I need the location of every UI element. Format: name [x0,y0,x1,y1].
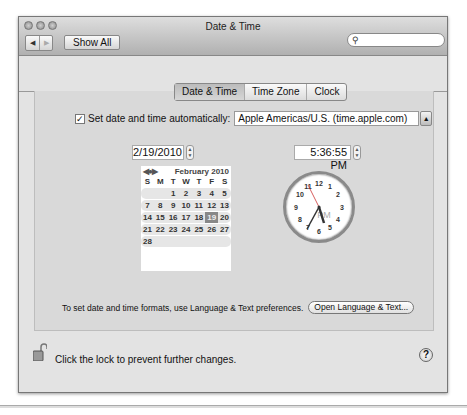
time-field[interactable]: 5:36:55 PM [294,145,351,160]
calendar-header: ◀●▶ February 2010 [141,166,231,177]
calendar-day[interactable]: 10 [180,200,193,211]
svg-text:9: 9 [294,204,298,211]
window-title: Date & Time [19,21,447,32]
calendar-day[interactable]: 27 [218,224,231,235]
svg-text:1: 1 [328,183,332,190]
calendar-day [154,188,167,199]
bottom-divider [0,405,467,408]
calendar-day[interactable]: 12 [205,200,218,211]
weekday: S [218,177,231,187]
calendar-day[interactable]: 13 [218,200,231,211]
weekday: S [141,177,154,187]
calendar-day[interactable]: 21 [141,224,154,235]
search-icon: ⚲ [352,34,359,47]
calendar-day[interactable]: 22 [154,224,167,235]
tab-date-time[interactable]: Date & Time [175,84,244,100]
date-time-panel: ✓ Set date and time automatically: Apple… [34,91,434,331]
calendar-week: 21 22 23 24 25 26 27 [141,224,231,235]
date-field[interactable]: 2/19/2010 [132,145,184,160]
calendar-nav-buttons[interactable]: ◀●▶ [143,167,157,176]
calendar-week: 28 [141,236,231,247]
calendar-day[interactable]: 11 [192,200,205,211]
nav-buttons: ◀ ▶ [25,35,53,51]
svg-text:10: 10 [296,191,304,198]
select-arrow-icon[interactable]: ▲ [420,111,432,126]
svg-text:5: 5 [328,224,332,231]
weekday: T [192,177,205,187]
search-input[interactable]: ⚲ [347,33,445,47]
calendar-day [141,188,154,199]
calendar-day[interactable]: 24 [180,224,193,235]
auto-time-row: ✓ Set date and time automatically: Apple… [75,111,419,126]
time-server-value: Apple Americas/U.S. (time.apple.com) [238,113,407,124]
calendar-day[interactable]: 7 [141,200,154,211]
calendar-day[interactable]: 17 [180,212,193,223]
tab-bar: Date & Time Time Zone Clock [174,83,347,101]
calendar-day-selected[interactable]: 19 [205,212,218,223]
format-hint-text: To set date and time formats, use Langua… [62,303,303,313]
weekday: T [167,177,180,187]
calendar-day[interactable]: 20 [218,212,231,223]
calendar-day[interactable]: 18 [192,212,205,223]
tab-time-zone[interactable]: Time Zone [244,84,306,100]
calendar-day[interactable]: 16 [167,212,180,223]
svg-text:3: 3 [340,204,344,211]
svg-text:6: 6 [317,228,321,235]
analog-clock[interactable]: 1212 345 678 91011 PM [283,171,355,243]
calendar-day[interactable]: 23 [167,224,180,235]
calendar-weekdays: S M T W T F S [141,177,231,187]
calendar-day[interactable]: 5 [218,188,231,199]
calendar-week: 1 2 3 4 5 [141,188,231,199]
calendar-day[interactable]: 8 [154,200,167,211]
date-time-window: Date & Time ◀ ▶ Show All ⚲ Date & Time T… [18,16,448,393]
calendar-day[interactable]: 25 [192,224,205,235]
clock-face-icon: 1212 345 678 91011 PM [286,174,352,240]
back-button[interactable]: ◀ [26,36,39,50]
lock-icon[interactable] [33,343,47,361]
svg-text:8: 8 [298,216,302,223]
calendar-month-label: February 2010 [175,167,229,176]
date-stepper[interactable]: ▲▼ [186,145,194,160]
svg-text:12: 12 [315,180,323,187]
weekday: W [180,177,193,187]
calendar-day[interactable]: 3 [192,188,205,199]
calendar-day[interactable]: 2 [180,188,193,199]
calendar-day[interactable]: 4 [205,188,218,199]
calendar-week: 7 8 9 10 11 12 13 [141,200,231,211]
lock-label: Click the lock to prevent further change… [55,354,236,365]
svg-text:11: 11 [304,183,312,190]
format-hint-row: To set date and time formats, use Langua… [62,301,414,314]
tab-clock[interactable]: Clock [306,84,346,100]
weekday: F [205,177,218,187]
calendar-day[interactable]: 26 [205,224,218,235]
calendar-day[interactable]: 15 [154,212,167,223]
forward-button[interactable]: ▶ [39,36,52,50]
calendar-day[interactable]: 14 [141,212,154,223]
calendar-day[interactable]: 9 [167,200,180,211]
time-stepper[interactable]: ▲▼ [353,145,361,160]
calendar-day[interactable]: 1 [167,188,180,199]
weekday: M [154,177,167,187]
open-language-text-button[interactable]: Open Language & Text... [308,301,414,314]
help-button[interactable]: ? [419,348,433,362]
calendar: ◀●▶ February 2010 S M T W T F S 1 2 3 4 … [141,166,231,271]
calendar-week: 14 15 16 17 18 19 20 [141,212,231,223]
auto-time-label: Set date and time automatically: [88,113,230,124]
show-all-button[interactable]: Show All [64,35,120,50]
calendar-day[interactable]: 28 [141,236,154,247]
svg-text:2: 2 [336,191,340,198]
auto-time-checkbox[interactable]: ✓ [75,114,85,124]
title-bar: Date & Time ◀ ▶ Show All ⚲ [19,17,447,56]
svg-text:4: 4 [336,216,340,223]
time-server-select[interactable]: Apple Americas/U.S. (time.apple.com) ▲ [234,111,419,126]
